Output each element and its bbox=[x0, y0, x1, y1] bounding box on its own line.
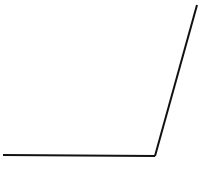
oblique-ray bbox=[155, 5, 197, 156]
horizontal-ray bbox=[3, 155, 155, 156]
angle-diagram bbox=[0, 0, 214, 175]
